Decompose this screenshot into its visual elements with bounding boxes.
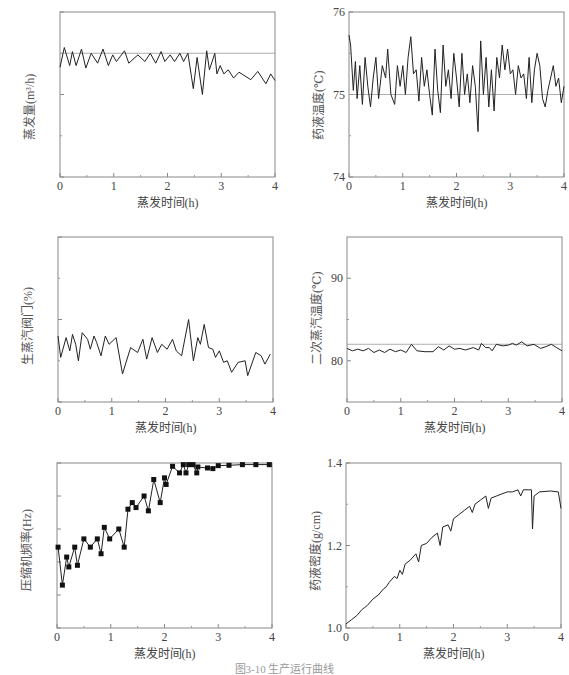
figure-caption: 图3-10 生产运行曲线 [0,660,569,675]
y-axis-label: 药液密度(g/cm) [306,511,324,591]
axes-frame [346,463,561,628]
chart-liquor-density: 012341.01.21.4蒸发时间(h)药液密度(g/cm) [0,0,569,675]
plot-area [0,0,569,675]
series-line [346,490,561,624]
